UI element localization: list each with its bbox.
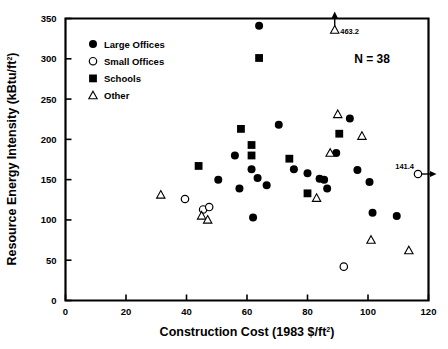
data-point — [248, 141, 256, 149]
y-tick-label: 0 — [51, 295, 56, 306]
annotation-label: 141.4 — [395, 162, 415, 171]
data-point — [263, 181, 271, 189]
data-point — [304, 169, 312, 177]
data-point — [304, 189, 312, 197]
data-point — [323, 185, 331, 193]
chart-canvas: 050100150200250300350020406080100120Cons… — [0, 0, 448, 349]
data-point — [248, 152, 256, 160]
data-point — [157, 191, 165, 199]
data-point — [195, 162, 203, 170]
data-point — [235, 185, 243, 193]
legend-label: Small Offices — [104, 56, 164, 67]
annotation-label: 463.2 — [340, 27, 359, 36]
data-point — [358, 132, 366, 140]
annotation-arrow-head — [332, 12, 338, 19]
data-point — [334, 110, 342, 118]
data-point — [340, 263, 347, 270]
data-point — [335, 130, 343, 138]
sample-size-label: N = 38 — [354, 52, 390, 66]
x-tick-label: 100 — [360, 306, 376, 317]
data-point — [249, 214, 257, 222]
data-point — [405, 246, 413, 254]
x-tick-label: 20 — [121, 306, 132, 317]
x-tick-label: 60 — [242, 306, 253, 317]
data-point — [312, 194, 320, 202]
y-tick-label: 200 — [41, 134, 57, 145]
data-point — [205, 203, 212, 210]
data-point — [346, 114, 354, 122]
data-point — [275, 121, 283, 129]
data-point — [237, 125, 245, 133]
x-axis-title: Construction Cost (1983 $/ft2) — [160, 325, 335, 339]
x-tick-label: 80 — [302, 306, 313, 317]
legend-label: Large Offices — [104, 39, 165, 50]
y-tick-label: 100 — [41, 214, 57, 225]
data-point — [353, 166, 361, 174]
data-point — [290, 165, 298, 173]
data-point — [248, 165, 256, 173]
x-tick-label: 40 — [181, 306, 192, 317]
data-point — [231, 151, 239, 159]
legend-marker-filled-circle — [89, 40, 97, 48]
data-point — [255, 54, 263, 62]
data-point — [320, 176, 328, 184]
y-tick-label: 250 — [41, 94, 57, 105]
data-point — [214, 176, 222, 184]
y-tick-label: 50 — [46, 255, 57, 266]
legend-label: Other — [104, 90, 130, 101]
data-point — [285, 155, 293, 163]
legend-marker-open-circle — [89, 58, 96, 65]
data-point — [255, 22, 263, 30]
y-tick-label: 150 — [41, 174, 57, 185]
data-point — [367, 236, 375, 244]
data-point — [366, 178, 374, 186]
x-tick-label: 120 — [421, 306, 437, 317]
x-tick-label: 0 — [63, 306, 68, 317]
svg-text:Resource Energy Intensity (kBt: Resource Energy Intensity (kBtu/ft2) — [5, 53, 19, 266]
data-point — [181, 195, 188, 202]
annotation-marker — [414, 170, 421, 177]
legend-marker-filled-square — [89, 75, 97, 83]
data-point — [254, 174, 262, 182]
y-axis-title: Resource Energy Intensity (kBtu/ft2) — [5, 53, 19, 266]
scatter-plot-figure: 050100150200250300350020406080100120Cons… — [0, 0, 448, 349]
y-tick-label: 300 — [41, 53, 57, 64]
legend-label: Schools — [104, 73, 141, 84]
annotation-marker — [331, 26, 339, 34]
data-point — [393, 212, 401, 220]
annotation-arrow-head — [430, 171, 437, 177]
legend-marker-open-triangle — [89, 91, 97, 99]
data-point — [369, 209, 377, 217]
y-tick-label: 350 — [41, 13, 57, 24]
